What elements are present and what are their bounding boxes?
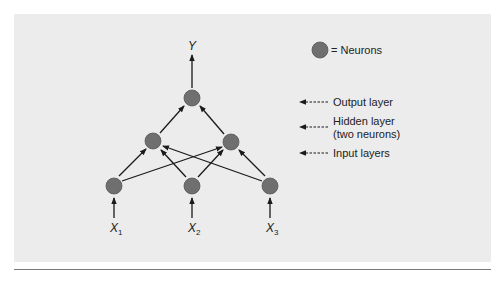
neural-network-diagram	[0, 0, 503, 281]
neuron-output	[184, 90, 200, 106]
hidden-layer-label: Hidden layer	[333, 115, 395, 127]
neurons	[106, 42, 328, 194]
input-label-x3: X3	[266, 222, 278, 239]
edge-i3-h1	[163, 146, 262, 181]
legend-neuron-icon	[312, 42, 328, 58]
input-layer-label: Input layers	[333, 147, 390, 159]
edge-i1-h1	[119, 149, 146, 176]
input-label-x1: X1	[110, 222, 122, 239]
edge-h2-o1	[200, 106, 224, 134]
edge-h1-o1	[160, 106, 184, 133]
neuron-input-2	[184, 178, 200, 194]
input-label-x2: X2	[188, 222, 200, 239]
neuron-hidden-1	[145, 133, 161, 149]
edge-i2-h1	[161, 150, 186, 177]
neuron-input-3	[262, 178, 278, 194]
output-label-y: Y	[188, 40, 196, 52]
neuron-hidden-2	[223, 134, 239, 150]
edge-i1-h2	[122, 147, 222, 181]
output-layer-label: Output layer	[333, 96, 393, 108]
edge-i3-h2	[239, 150, 265, 176]
network-edges	[119, 55, 265, 181]
legend-neurons-label: = Neurons	[331, 44, 382, 56]
hidden-layer-sublabel: (two neurons)	[333, 128, 400, 140]
neuron-input-1	[106, 178, 122, 194]
legend-arrows	[300, 102, 328, 153]
input-arrows	[114, 198, 270, 218]
